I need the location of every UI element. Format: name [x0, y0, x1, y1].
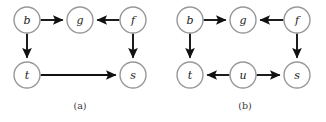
figure-container: bgftsbgftus (a)(b): [0, 0, 326, 122]
graph-node-s[interactable]: s: [120, 62, 146, 88]
panel-caption-panel-a: (a): [73, 100, 86, 111]
node-label-b: b: [23, 14, 30, 27]
node-label-g: g: [76, 14, 83, 27]
captions-layer: (a)(b): [73, 100, 251, 111]
node-label-s: s: [130, 69, 136, 82]
graph-node-f[interactable]: f: [284, 7, 310, 33]
graph-node-s[interactable]: s: [284, 62, 310, 88]
node-label-s: s: [294, 69, 300, 82]
edges-layer: [27, 20, 297, 75]
graph-node-g[interactable]: g: [230, 7, 256, 33]
node-label-t: t: [188, 69, 193, 82]
graph-node-u[interactable]: u: [230, 62, 256, 88]
panel-caption-panel-b: (b): [238, 100, 252, 111]
node-label-g: g: [239, 14, 246, 27]
graph-node-t[interactable]: t: [177, 62, 203, 88]
graph-node-t[interactable]: t: [14, 62, 40, 88]
node-label-b: b: [186, 14, 193, 27]
node-label-t: t: [25, 69, 30, 82]
graph-diagram-canvas: bgftsbgftus (a)(b): [0, 0, 326, 122]
graph-node-g[interactable]: g: [67, 7, 93, 33]
graph-node-b[interactable]: b: [14, 7, 40, 33]
graph-node-f[interactable]: f: [120, 7, 146, 33]
graph-node-b[interactable]: b: [177, 7, 203, 33]
node-label-u: u: [239, 69, 246, 82]
